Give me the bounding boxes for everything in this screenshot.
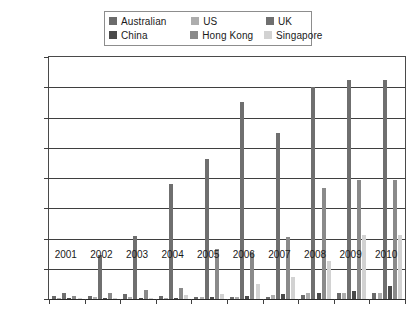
gridline <box>49 208 405 209</box>
x-axis-tick <box>405 299 406 304</box>
gridline <box>49 118 405 119</box>
gridline <box>49 87 405 88</box>
bar <box>93 297 97 299</box>
bar <box>133 236 137 299</box>
legend-label-china: China <box>121 30 148 41</box>
legend-item-us: US <box>191 16 266 27</box>
bar <box>113 298 117 300</box>
bar <box>256 284 260 299</box>
bar <box>378 293 382 299</box>
bar <box>398 235 402 299</box>
bar <box>286 237 290 299</box>
bar <box>139 298 143 300</box>
x-axis-tick <box>227 299 228 304</box>
legend-row: China Hong Kong Singapore <box>109 28 308 42</box>
y-axis-tick <box>44 118 49 119</box>
bar <box>240 102 244 299</box>
bar <box>235 297 239 299</box>
bar <box>72 296 76 299</box>
x-axis-label: 2004 <box>153 249 193 260</box>
x-axis-tick <box>298 299 299 304</box>
bar <box>372 293 376 299</box>
bar <box>57 298 61 300</box>
legend-item-china: China <box>109 30 190 41</box>
bar <box>393 180 397 299</box>
bar <box>103 298 107 300</box>
gridline <box>49 148 405 149</box>
x-axis-label: 2010 <box>366 249 406 260</box>
x-axis-label: 2002 <box>81 249 121 260</box>
bar <box>276 133 280 299</box>
bar <box>357 180 361 299</box>
bar <box>108 293 112 300</box>
x-axis-tick <box>156 299 157 304</box>
bar <box>194 297 198 299</box>
bar <box>179 288 183 299</box>
bar <box>383 80 387 299</box>
bar <box>174 298 178 300</box>
bar <box>342 293 346 299</box>
y-axis-tick <box>44 269 49 270</box>
x-axis-label: 2005 <box>188 249 228 260</box>
x-axis-label: 2001 <box>46 249 86 260</box>
legend-item-australian: Australian <box>109 16 191 27</box>
gridline <box>49 269 405 270</box>
bar <box>210 297 214 299</box>
y-axis-tick <box>44 239 49 240</box>
bar <box>230 297 234 299</box>
legend-swatch-singapore <box>264 31 272 39</box>
legend-item-singapore: Singapore <box>264 30 308 41</box>
chart-legend: Australian US UK China Hong Kong Si <box>104 11 312 46</box>
y-axis-tick <box>44 208 49 209</box>
bar <box>220 294 224 299</box>
gridline <box>49 239 405 240</box>
bar <box>128 297 132 299</box>
bar <box>347 80 351 299</box>
bar-chart: Australian US UK China Hong Kong Si <box>0 0 412 332</box>
bar <box>306 293 310 299</box>
x-axis-tick <box>369 299 370 304</box>
x-axis-tick <box>191 299 192 304</box>
bar <box>78 298 82 300</box>
y-axis-tick <box>44 57 49 58</box>
legend-item-uk: UK <box>266 16 308 27</box>
bar <box>159 296 163 299</box>
bar <box>200 297 204 299</box>
x-axis-tick <box>120 299 121 304</box>
bar <box>388 286 392 299</box>
bar <box>322 188 326 299</box>
bar <box>362 235 366 299</box>
x-axis-tick <box>263 299 264 304</box>
bar <box>245 296 249 299</box>
x-axis-tick <box>85 299 86 304</box>
legend-label-singapore: Singapore <box>276 30 323 41</box>
bar <box>281 294 285 299</box>
plot-area <box>48 56 406 300</box>
x-axis-label: 2008 <box>295 249 335 260</box>
legend-swatch-uk <box>266 17 274 25</box>
bar <box>98 255 102 299</box>
bar <box>352 291 356 299</box>
legend-label-us: US <box>203 16 217 27</box>
bar <box>123 294 127 299</box>
legend-swatch-hong-kong <box>190 31 198 39</box>
legend-swatch-australian <box>109 17 117 25</box>
bar <box>266 297 270 299</box>
bar <box>205 159 209 299</box>
x-axis-tick <box>334 299 335 304</box>
bar <box>184 295 188 299</box>
gridline <box>49 178 405 179</box>
x-axis-label: 2003 <box>117 249 157 260</box>
bar <box>67 298 71 300</box>
bar <box>169 184 173 299</box>
x-axis-label: 2006 <box>224 249 264 260</box>
legend-label-hong-kong: Hong Kong <box>202 30 253 41</box>
bar <box>144 290 148 299</box>
bar <box>337 293 341 300</box>
bar <box>291 277 295 299</box>
legend-item-hong-kong: Hong Kong <box>190 30 264 41</box>
x-axis-label: 2009 <box>331 249 371 260</box>
legend-label-uk: UK <box>278 16 292 27</box>
bar <box>271 295 275 299</box>
x-axis-label: 2007 <box>259 249 299 260</box>
